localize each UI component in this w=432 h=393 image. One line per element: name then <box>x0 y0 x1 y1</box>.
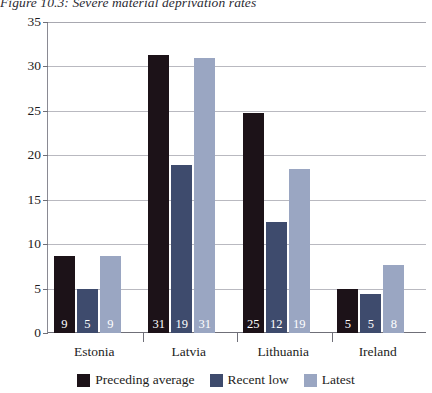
gridline-10 <box>48 244 426 245</box>
y-axis-tick-label: 15 <box>1 193 41 207</box>
chart-figure: Figure 10.3: Severe material deprivation… <box>0 0 432 393</box>
legend-swatch-icon <box>210 374 223 387</box>
x-axis-category-label-estonia: Estonia <box>47 345 142 359</box>
legend-label: Recent low <box>228 373 289 387</box>
bar-lithuania-recent-low: 12 <box>266 222 287 333</box>
y-axis-labels: 05101520253035 <box>0 22 41 333</box>
figure-title: Figure 10.3: Severe material deprivation… <box>0 0 432 11</box>
gridline-25 <box>48 111 426 112</box>
y-axis-tick-label: 35 <box>1 15 41 29</box>
bar-lithuania-latest: 19 <box>289 169 310 333</box>
bar-value-label: 8 <box>383 318 404 331</box>
gridline-30 <box>48 66 426 67</box>
y-tick-25 <box>43 111 48 112</box>
y-tick-0 <box>43 333 48 334</box>
bar-latvia-preceding-average: 31 <box>148 55 169 333</box>
bar-estonia-latest: 9 <box>100 256 121 333</box>
x-axis-category-label-lithuania: Lithuania <box>236 345 331 359</box>
bar-value-label: 5 <box>360 318 381 331</box>
legend-label: Latest <box>322 373 355 387</box>
gridline-20 <box>48 155 426 156</box>
bar-estonia-recent-low: 5 <box>77 289 98 333</box>
bar-value-label: 5 <box>77 318 98 331</box>
bar-ireland-recent-low: 5 <box>360 294 381 333</box>
legend-swatch-icon <box>77 374 90 387</box>
x-axis-category-label-latvia: Latvia <box>142 345 237 359</box>
bar-ireland-preceding-average: 5 <box>337 289 358 333</box>
y-axis-tick-label: 10 <box>1 237 41 251</box>
y-axis-tick-label: 0 <box>1 326 41 340</box>
y-axis-tick-label: 30 <box>1 59 41 73</box>
y-tick-5 <box>43 289 48 290</box>
bar-latvia-latest: 31 <box>194 58 215 333</box>
plot-area: 959311931251219558 <box>47 22 425 333</box>
gridline-35 <box>48 22 426 23</box>
bar-value-label: 25 <box>243 318 264 331</box>
y-tick-10 <box>43 244 48 245</box>
legend-item-recent-low[interactable]: Recent low <box>210 373 289 387</box>
y-tick-20 <box>43 155 48 156</box>
bar-value-label: 31 <box>194 318 215 331</box>
y-tick-15 <box>43 200 48 201</box>
y-tick-35 <box>43 22 48 23</box>
legend-item-preceding-average[interactable]: Preceding average <box>77 373 194 387</box>
y-tick-30 <box>43 66 48 67</box>
bar-latvia-recent-low: 19 <box>171 165 192 333</box>
x-axis-tick <box>237 333 238 342</box>
y-axis-tick-label: 25 <box>1 104 41 118</box>
y-axis-tick-label: 20 <box>1 148 41 162</box>
x-axis-tick <box>143 333 144 342</box>
chart-legend: Preceding averageRecent lowLatest <box>0 370 432 390</box>
bar-estonia-preceding-average: 9 <box>54 256 75 333</box>
legend-swatch-icon <box>304 374 317 387</box>
legend-label: Preceding average <box>95 373 194 387</box>
bar-ireland-latest: 8 <box>383 265 404 333</box>
bar-lithuania-preceding-average: 25 <box>243 113 264 333</box>
bar-value-label: 19 <box>289 318 310 331</box>
bar-value-label: 31 <box>148 318 169 331</box>
bar-value-label: 9 <box>54 318 75 331</box>
bar-value-label: 5 <box>337 318 358 331</box>
x-axis-tick <box>332 333 333 342</box>
legend-item-latest[interactable]: Latest <box>304 373 355 387</box>
bar-value-label: 12 <box>266 318 287 331</box>
y-axis-tick-label: 5 <box>1 282 41 296</box>
bar-value-label: 19 <box>171 318 192 331</box>
bar-value-label: 9 <box>100 318 121 331</box>
x-axis-category-label-ireland: Ireland <box>331 345 426 359</box>
gridline-15 <box>48 200 426 201</box>
